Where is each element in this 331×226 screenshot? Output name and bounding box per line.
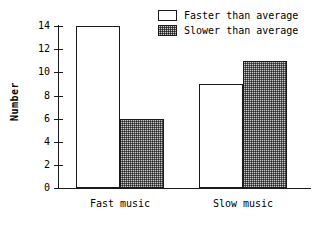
y-tick-12 [54,49,63,50]
x-axis-label-fast-music: Fast music [70,198,170,209]
x-axis-label-slow-music: Slow music [193,198,293,209]
bar-slow-music-slower [243,61,287,188]
legend-swatch-open-icon [158,10,177,21]
legend-label-slower: Slower than average [184,25,298,36]
y-tick-6 [54,119,63,120]
y-tick-label-8: 8 [44,91,50,101]
y-tick-label-2: 2 [44,160,50,170]
y-tick-4 [54,142,63,143]
bar-chart: Number 14 12 10 8 6 4 2 0 Fast music Slo… [0,0,331,226]
y-tick-2 [54,165,63,166]
y-tick-label-12: 12 [38,44,50,54]
y-axis-title: Number [9,72,20,132]
y-tick-label-14: 14 [38,21,50,31]
bar-slow-music-faster [199,84,243,188]
bar-fast-music-slower [120,119,164,188]
y-tick-label-10: 10 [38,67,50,77]
y-tick-0 [54,188,63,189]
y-tick-label-0: 0 [44,183,50,193]
x-axis-line [58,188,311,189]
bar-fast-music-faster [76,26,120,188]
y-tick-14 [54,26,63,27]
y-tick-10 [54,72,63,73]
legend-label-faster: Faster than average [184,10,298,21]
y-tick-label-4: 4 [44,137,50,147]
y-tick-8 [54,96,63,97]
legend-swatch-shaded-icon [158,25,177,36]
legend: Faster than average Slower than average [158,9,298,36]
legend-item-faster: Faster than average [158,9,298,21]
y-tick-label-6: 6 [44,114,50,124]
legend-item-slower: Slower than average [158,24,298,36]
